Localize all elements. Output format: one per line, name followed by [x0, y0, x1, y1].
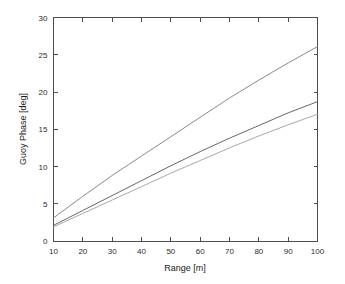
x-tick-label: 80 [254, 247, 263, 256]
y-axis-label: Guoy Phase [deg] [18, 93, 28, 165]
y-tick-label: 20 [39, 88, 48, 97]
x-axis-label: Range [m] [164, 263, 206, 273]
x-tick-label: 60 [196, 247, 205, 256]
line-chart: 102030405060708090100 051015202530 Range… [0, 0, 345, 284]
y-tick-label: 30 [39, 14, 48, 23]
y-tick-label: 15 [39, 125, 48, 134]
x-tick-label: 70 [225, 247, 234, 256]
x-tick-label: 30 [108, 247, 117, 256]
x-tick-label: 90 [284, 247, 293, 256]
x-tick-label: 50 [166, 247, 175, 256]
y-tick-label: 5 [43, 200, 48, 209]
y-tick-label: 0 [43, 237, 48, 246]
x-tick-label: 100 [311, 247, 325, 256]
x-tick-label: 40 [137, 247, 146, 256]
x-tick-label: 10 [49, 247, 58, 256]
y-tick-label: 25 [39, 51, 48, 60]
figure-container: 102030405060708090100 051015202530 Range… [0, 0, 345, 284]
y-tick-label: 10 [39, 163, 48, 172]
x-tick-label: 20 [78, 247, 87, 256]
